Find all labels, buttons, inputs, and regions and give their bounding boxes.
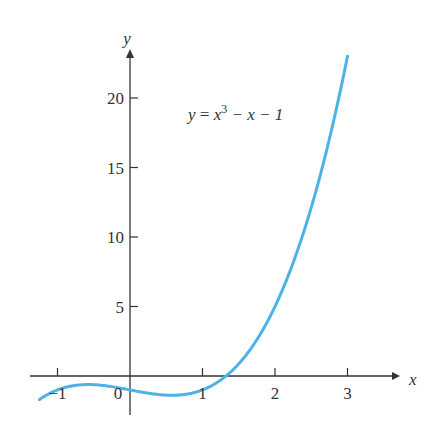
- y-tick-label: 5: [116, 298, 125, 317]
- x-axis-label: x: [408, 370, 417, 389]
- y-tick-label: 15: [107, 159, 124, 178]
- x-tick-label: 2: [271, 384, 280, 403]
- chart: −112305101520xyy = x3 − x − 1: [0, 0, 441, 433]
- x-tick-label: −1: [48, 384, 66, 403]
- equation-annotation: y = x3 − x − 1: [186, 102, 283, 124]
- x-tick-label: 1: [198, 384, 207, 403]
- y-tick-label: 20: [107, 89, 124, 108]
- y-tick-label: 10: [107, 228, 124, 247]
- labels: −112305101520xyy = x3 − x − 1: [48, 29, 417, 403]
- x-tick-label: 3: [343, 384, 352, 403]
- x-axis-arrow-icon: [392, 372, 400, 380]
- origin-label: 0: [114, 384, 123, 403]
- y-axis-label: y: [121, 29, 131, 48]
- y-axis-arrow-icon: [126, 49, 134, 58]
- axes: [30, 49, 400, 415]
